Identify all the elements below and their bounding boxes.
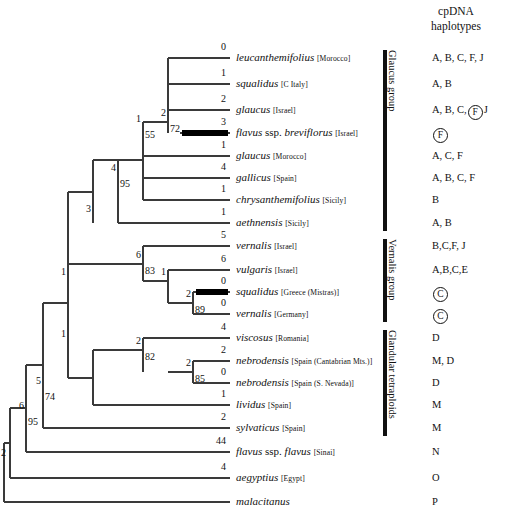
haplotype-glaucus-israel: A, B, C,FJ (432, 104, 488, 120)
taxon-species: nebrodensis (236, 376, 289, 388)
haplotype-text: N (432, 446, 440, 457)
taxon-species: flavus (236, 126, 262, 138)
haplotype-text: B (432, 194, 439, 205)
taxon-species: squalidus (236, 285, 278, 297)
group-label-glandular-tetraploids: Glandular tetraploids (387, 330, 398, 419)
haplotype-nebrodensis-cantabrian: M, D (432, 355, 454, 366)
haplotype-leucanthemifolius: A, B, C, F, J (432, 52, 484, 63)
taxon-species: sylvaticus (236, 421, 279, 433)
branch-length-squalidus-greece: 0 (198, 276, 226, 286)
bootstrap-node-89: 89 (195, 305, 205, 315)
bootstrap-node-85: 85 (195, 374, 205, 384)
haplotype-circled-C: C (433, 287, 448, 302)
taxon-rank: ssp. (262, 126, 284, 138)
branch-length-node-83: 6 (115, 250, 141, 260)
haplotype-text: D (432, 377, 440, 388)
haplotype-text: A, B, C, F (432, 172, 475, 183)
branch-length-nebrodensis-cantabrian: 2 (198, 345, 226, 355)
taxon-label-aethnensis: aethnensis [Sicily] (236, 217, 309, 229)
branch-length-node-95-glaucus: 4 (90, 163, 116, 173)
taxon-species: glaucus (236, 103, 270, 115)
taxon-label-aegyptius: aegyptius [Egypt] (236, 472, 305, 484)
taxon-label-chrysanthemifolius: chrysanthemifolius [Sicily] (236, 194, 346, 206)
taxon-label-flavus-flavus: flavus ssp. flavus [Sinai] (236, 446, 335, 458)
haplotype-text: O (432, 472, 440, 483)
bootstrap-node-55: 55 (145, 130, 155, 140)
taxon-species: nebrodensis (236, 354, 289, 366)
bootstrap-node-95-lower: 95 (28, 417, 38, 427)
taxon-label-vernalis-germany: vernalis [Germany] (236, 308, 308, 320)
haplotype-text: A, C, F (432, 150, 463, 161)
taxon-locality: [Spain] (282, 424, 305, 433)
haplotype-text: M (432, 399, 441, 410)
bootstrap-node-72: 72 (170, 124, 180, 134)
branch-length-lividus: 1 (198, 389, 226, 399)
haplotype-chrysanthemifolius: B (432, 194, 439, 205)
taxon-label-glaucus-morocco: glaucus [Morocco] (236, 150, 306, 162)
branch-length-node-85: 2 (165, 358, 191, 368)
taxon-locality: [Spain (S. Nevada)] (292, 379, 354, 388)
haplotype-text: A, B (432, 217, 452, 228)
haplotype-circled-F: F (468, 105, 483, 120)
taxon-locality: [Egypt] (281, 474, 305, 483)
taxon-label-flavus-breviflorus: flavus ssp. breviflorus [Israel] (236, 127, 358, 139)
haplotype-squalidus-greece: C (432, 286, 449, 302)
taxon-label-squalidus-greece: squalidus [Greece (Mistras)] (236, 286, 339, 298)
haplotype-lividus: M (432, 399, 441, 410)
branch-length-node-55: 1 (115, 114, 141, 124)
branch-length-node-1-vernalis: 1 (140, 267, 166, 277)
taxon-label-gallicus: gallicus [Spain] (236, 172, 297, 184)
haplotype-text: M (432, 422, 441, 433)
haplotype-text: D (432, 332, 440, 343)
haplotype-gallicus: A, B, C, F (432, 172, 475, 183)
branch-length-node-74: 5 (15, 376, 41, 386)
taxon-species: glaucus (236, 149, 270, 161)
branch-length-chrysanthemifolius: 1 (198, 184, 226, 194)
haplotype-malacitanus: P (432, 496, 438, 507)
haplotype-text: B,C,F, J (432, 240, 466, 251)
haplotype-nebrodensis-nevada: D (432, 377, 440, 388)
taxon-label-leucanthemifolius: leucanthemifolius [Morocco] (236, 52, 350, 64)
taxon-locality: [Israel] (273, 106, 296, 115)
taxon-species: chrysanthemifolius (236, 193, 320, 205)
haplotype-sylvaticus: M (432, 422, 441, 433)
taxon-species: vulgaris (236, 263, 272, 275)
haplotype-aethnensis: A, B (432, 217, 452, 228)
haplotype-text: M, D (432, 355, 454, 366)
haplotype-glaucus-morocco: A, C, F (432, 150, 463, 161)
taxon-locality: [Israel] (335, 129, 358, 138)
haplotype-flavus-flavus: N (432, 446, 440, 457)
taxon-subspecies: flavus (285, 445, 311, 457)
taxon-species: aegyptius (236, 471, 278, 483)
taxon-species: viscosus (236, 331, 273, 343)
haplotype-circled-C: C (433, 309, 448, 324)
haplotype-text: A, B, C, (432, 104, 467, 115)
taxon-locality: [Israel] (275, 266, 298, 275)
taxon-locality: [Morocco] (317, 54, 350, 63)
taxon-subspecies: breviflorus (285, 126, 333, 138)
branch-length-viscosus: 4 (198, 322, 226, 332)
taxon-label-nebrodensis-nevada: nebrodensis [Spain (S. Nevada)] (236, 377, 354, 389)
taxon-label-vernalis-israel: vernalis [Israel] (236, 240, 297, 252)
haplotype-viscosus: D (432, 332, 440, 343)
branch-length-squalidus-citaly: 1 (198, 68, 226, 78)
taxon-species: squalidus (236, 77, 278, 89)
taxon-locality: [Sicily] (322, 196, 346, 205)
taxon-label-lividus: lividus [Spain] (236, 399, 291, 411)
taxon-locality: [Spain] (274, 174, 297, 183)
branch-length-node-1-lower: 1 (40, 329, 66, 339)
bootstrap-node-74: 74 (45, 392, 55, 402)
haplotype-vernalis-israel: B,C,F, J (432, 240, 466, 251)
haplotype-text-tail: J (484, 104, 488, 115)
taxon-label-viscosus: viscosus [Romania] (236, 332, 309, 344)
taxon-locality: [Israel] (274, 242, 297, 251)
haplotype-aegyptius: O (432, 472, 440, 483)
haplotype-text: A, B (432, 78, 452, 89)
branch-length-node-72: 2 (140, 108, 166, 118)
branch-length-sylvaticus: 2 (198, 412, 226, 422)
taxon-label-squalidus-citaly: squalidus [C Italy] (236, 78, 308, 90)
group-label-vernalis-group: Vernalis group (387, 239, 398, 301)
taxon-locality: [Germany] (274, 310, 308, 319)
branch-length-node-82: 2 (115, 336, 141, 346)
taxon-locality: [C Italy] (281, 80, 308, 89)
